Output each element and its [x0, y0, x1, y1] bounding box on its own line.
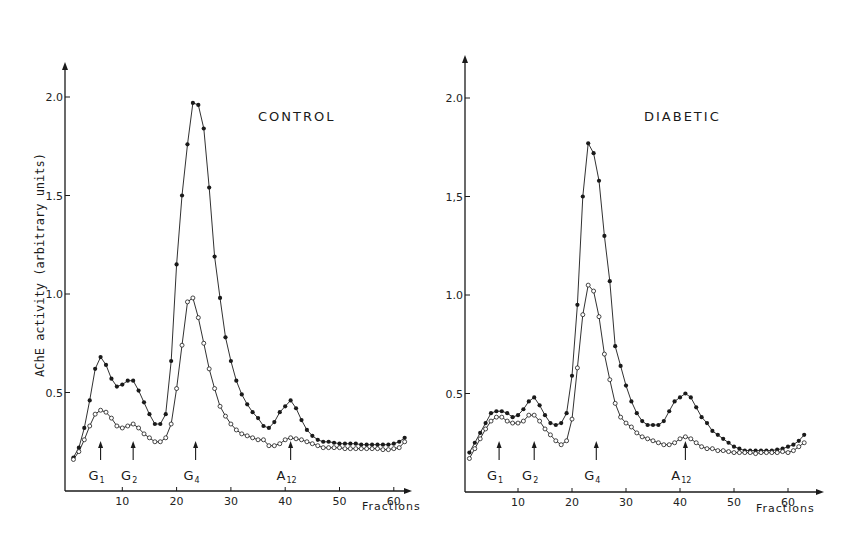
open-circle-marker-icon — [511, 421, 515, 425]
peak-label: G1 — [487, 468, 503, 485]
filled-circle-marker-icon — [375, 443, 379, 447]
filled-circle-marker-icon — [559, 421, 563, 425]
open-circle-marker-icon — [667, 443, 671, 447]
open-circle-marker-icon — [640, 435, 644, 439]
filled-circle-marker-icon — [343, 442, 347, 446]
filled-circle-marker-icon — [299, 418, 303, 422]
open-circle-marker-icon — [240, 432, 244, 436]
filled-circle-marker-icon — [516, 413, 520, 417]
filled-circle-marker-icon — [251, 410, 255, 414]
filled-circle-marker-icon — [240, 392, 244, 396]
filled-circle-marker-icon — [354, 442, 358, 446]
peak-label: G4 — [584, 468, 600, 485]
filled-circle-marker-icon — [543, 413, 547, 417]
open-circle-marker-icon — [484, 427, 488, 431]
open-circle-marker-icon — [791, 449, 795, 453]
open-circle-marker-icon — [213, 387, 217, 391]
open-circle-marker-icon — [175, 387, 179, 391]
filled-circle-marker-icon — [710, 429, 714, 433]
peak-label-subscript: 1 — [498, 476, 503, 485]
open-circle-marker-icon — [354, 447, 358, 451]
filled-circle-marker-icon — [510, 415, 514, 419]
filled-circle-marker-icon — [316, 438, 320, 442]
open-circle-marker-icon — [732, 451, 736, 455]
open-circle-marker-icon — [185, 300, 189, 304]
filled-circle-marker-icon — [484, 421, 488, 425]
filled-circle-marker-icon — [478, 431, 482, 435]
y-tick-label: 2.0 — [446, 92, 464, 105]
filled-circle-marker-icon — [705, 421, 709, 425]
open-circle-marker-icon — [743, 451, 747, 455]
filled-circle-marker-icon — [348, 442, 352, 446]
open-circle-marker-icon — [635, 431, 639, 435]
up-arrow-icon — [594, 441, 599, 448]
open-circle-marker-icon — [581, 313, 585, 317]
open-circle-marker-icon — [586, 283, 590, 287]
open-circle-marker-icon — [737, 451, 741, 455]
up-arrow-icon — [288, 441, 293, 448]
open-circle-marker-icon — [234, 428, 238, 432]
open-circle-marker-icon — [721, 449, 725, 453]
figure: 0.51.01.52.0102030405060CONTROLFractions… — [0, 0, 846, 540]
filled-circles-line — [73, 103, 404, 458]
open-circle-marker-icon — [500, 415, 504, 419]
peak-label-subscript: 1 — [100, 476, 105, 485]
open-circle-marker-icon — [120, 426, 124, 430]
filled-circle-marker-icon — [98, 355, 102, 359]
open-circle-marker-icon — [365, 447, 369, 451]
filled-circle-marker-icon — [185, 142, 189, 146]
open-circle-marker-icon — [278, 442, 282, 446]
open-circle-marker-icon — [142, 432, 146, 436]
filled-circle-marker-icon — [305, 428, 309, 432]
x-tick-label: 20 — [565, 496, 579, 509]
filled-circle-marker-icon — [662, 419, 666, 423]
x-axis-arrow-icon — [404, 488, 412, 494]
open-circle-marker-icon — [521, 419, 525, 423]
open-circle-marker-icon — [662, 443, 666, 447]
peak-label-subscript: 4 — [595, 476, 600, 485]
up-arrow-icon — [98, 441, 103, 448]
open-circle-marker-icon — [164, 436, 168, 440]
open-circle-marker-icon — [781, 450, 785, 454]
y-tick-label: 1.0 — [446, 289, 464, 302]
open-circle-marker-icon — [494, 415, 498, 419]
open-circle-marker-icon — [71, 457, 75, 461]
open-circle-marker-icon — [716, 449, 720, 453]
open-circle-marker-icon — [489, 419, 493, 423]
filled-circle-marker-icon — [169, 359, 173, 363]
x-tick-label: 20 — [170, 495, 184, 508]
filled-circle-marker-icon — [565, 411, 569, 415]
filled-circle-marker-icon — [202, 126, 206, 130]
filled-circle-marker-icon — [602, 234, 606, 238]
peak-label: G1 — [88, 468, 104, 485]
filled-circle-marker-icon — [332, 441, 336, 445]
open-circle-marker-icon — [613, 401, 617, 405]
open-circle-marker-icon — [267, 444, 271, 448]
open-circle-marker-icon — [602, 352, 606, 356]
open-circle-marker-icon — [359, 447, 363, 451]
y-tick-label: 0.5 — [446, 388, 464, 401]
open-circle-marker-icon — [338, 446, 342, 450]
filled-circle-marker-icon — [646, 423, 650, 427]
open-circle-marker-icon — [218, 404, 222, 408]
filled-circle-marker-icon — [191, 101, 195, 105]
open-circle-marker-icon — [392, 447, 396, 451]
filled-circle-marker-icon — [381, 443, 385, 447]
x-tick-label: 40 — [673, 496, 687, 509]
open-circle-marker-icon — [256, 438, 260, 442]
filled-circle-marker-icon — [207, 186, 211, 190]
peak-label-subscript: 2 — [533, 476, 538, 485]
filled-circle-marker-icon — [180, 193, 184, 197]
open-circle-marker-icon — [196, 316, 200, 320]
open-circle-marker-icon — [727, 450, 731, 454]
open-circle-marker-icon — [608, 378, 612, 382]
filled-circle-marker-icon — [613, 344, 617, 348]
open-circle-marker-icon — [310, 442, 314, 446]
y-tick-label: 1.5 — [46, 190, 64, 203]
filled-circle-marker-icon — [467, 451, 471, 455]
open-circle-marker-icon — [207, 367, 211, 371]
y-tick-label: 2.0 — [46, 91, 64, 104]
filled-circle-marker-icon — [153, 422, 157, 426]
filled-circle-marker-icon — [229, 359, 233, 363]
control-panel: 0.51.01.52.0102030405060CONTROLFractions… — [33, 62, 421, 513]
